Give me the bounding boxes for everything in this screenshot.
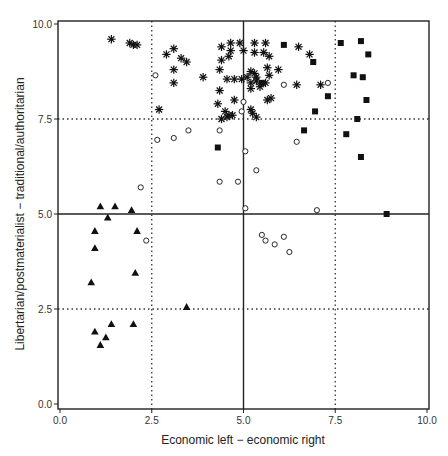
asterisk-marker-icon xyxy=(217,56,225,64)
asterisk-marker-icon xyxy=(107,35,115,43)
y-tick-label: 7.5 xyxy=(38,114,52,125)
asterisk-marker-icon xyxy=(261,39,269,47)
filled-square-marker-icon xyxy=(358,38,364,44)
asterisk-marker-icon xyxy=(170,79,178,87)
asterisk-marker-icon xyxy=(265,52,273,60)
asterisk-marker-icon xyxy=(215,65,223,73)
asterisk-marker-icon xyxy=(239,46,247,54)
open-circle-marker-icon xyxy=(171,135,176,140)
asterisk-marker-icon xyxy=(215,86,223,94)
asterisk-marker-icon xyxy=(267,94,275,102)
open-circle-marker-icon xyxy=(155,137,160,142)
asterisk-marker-icon xyxy=(155,105,163,113)
filled-square-marker-icon xyxy=(259,80,265,86)
open-circle-marker-icon xyxy=(325,80,330,85)
filled-square-marker-icon xyxy=(338,40,344,46)
open-circle-marker-icon xyxy=(153,73,158,78)
asterisk-marker-icon xyxy=(199,73,207,81)
x-tick-label: 0.0 xyxy=(53,415,67,426)
asterisk-marker-icon xyxy=(316,81,324,89)
asterisk-marker-icon xyxy=(243,73,251,81)
asterisk-marker-icon xyxy=(228,111,236,119)
filled-square-marker-icon xyxy=(343,131,349,137)
filled-square-marker-icon xyxy=(358,154,364,160)
open-circle-marker-icon xyxy=(138,185,143,190)
open-circle-marker-icon xyxy=(217,128,222,133)
open-circle-marker-icon xyxy=(239,109,244,114)
open-circle-marker-icon xyxy=(272,242,277,247)
asterisk-marker-icon xyxy=(294,43,302,51)
open-circle-marker-icon xyxy=(263,238,268,243)
asterisk-marker-icon xyxy=(223,75,231,83)
asterisk-marker-icon xyxy=(293,81,301,89)
open-circle-marker-icon xyxy=(287,249,292,254)
asterisk-marker-icon xyxy=(265,71,273,79)
filled-square-marker-icon xyxy=(301,127,307,133)
filled-square-marker-icon xyxy=(365,51,371,57)
open-circle-marker-icon xyxy=(254,168,259,173)
x-tick-label: 7.5 xyxy=(328,415,342,426)
open-circle-marker-icon xyxy=(314,208,319,213)
asterisk-marker-icon xyxy=(247,84,255,92)
scatter-chart: 0.02.55.07.510.0 0.02.55.07.510.0 Econom… xyxy=(0,0,448,456)
asterisk-marker-icon xyxy=(177,54,185,62)
asterisk-marker-icon xyxy=(133,41,141,49)
y-axis-label: Libertarian/postmaterialist − traditiona… xyxy=(13,77,27,350)
asterisk-marker-icon xyxy=(170,45,178,53)
open-circle-marker-icon xyxy=(259,232,264,237)
filled-square-marker-icon xyxy=(354,116,360,122)
asterisk-marker-icon xyxy=(252,113,260,121)
asterisk-marker-icon xyxy=(170,65,178,73)
asterisk-marker-icon xyxy=(274,65,282,73)
x-tick-label: 10.0 xyxy=(417,415,437,426)
chart-background xyxy=(0,0,448,456)
open-circle-marker-icon xyxy=(144,238,149,243)
asterisk-marker-icon xyxy=(250,48,258,56)
y-tick-label: 2.5 xyxy=(38,304,52,315)
asterisk-marker-icon xyxy=(217,43,225,51)
x-tick-label: 2.5 xyxy=(145,415,159,426)
asterisk-marker-icon xyxy=(182,58,190,66)
asterisk-marker-icon xyxy=(230,96,238,104)
asterisk-marker-icon xyxy=(305,50,313,58)
filled-square-marker-icon xyxy=(281,42,287,48)
asterisk-marker-icon xyxy=(162,50,170,58)
open-circle-marker-icon xyxy=(235,179,240,184)
open-circle-marker-icon xyxy=(217,179,222,184)
filled-square-marker-icon xyxy=(384,211,390,217)
open-circle-marker-icon xyxy=(241,99,246,104)
asterisk-marker-icon xyxy=(225,52,233,60)
filled-square-marker-icon xyxy=(310,59,316,65)
filled-square-marker-icon xyxy=(325,93,331,99)
asterisk-marker-icon xyxy=(250,39,258,47)
y-tick-label: 0.0 xyxy=(38,399,52,410)
asterisk-marker-icon xyxy=(230,75,238,83)
open-circle-marker-icon xyxy=(281,234,286,239)
filled-square-marker-icon xyxy=(360,74,366,80)
filled-square-marker-icon xyxy=(351,72,357,78)
x-axis-label: Economic left − economic right xyxy=(161,433,325,447)
asterisk-marker-icon xyxy=(226,39,234,47)
asterisk-marker-icon xyxy=(236,39,244,47)
y-tick-label: 5.0 xyxy=(38,209,52,220)
open-circle-marker-icon xyxy=(243,149,248,154)
x-tick-label: 5.0 xyxy=(237,415,251,426)
filled-square-marker-icon xyxy=(363,97,369,103)
asterisk-marker-icon xyxy=(214,100,222,108)
open-circle-marker-icon xyxy=(243,206,248,211)
asterisk-marker-icon xyxy=(263,64,271,72)
asterisk-marker-icon xyxy=(247,67,255,75)
asterisk-marker-icon xyxy=(259,48,267,56)
open-circle-marker-icon xyxy=(281,82,286,87)
filled-square-marker-icon xyxy=(215,145,221,151)
asterisk-marker-icon xyxy=(226,46,234,54)
filled-square-marker-icon xyxy=(312,108,318,114)
open-circle-marker-icon xyxy=(294,139,299,144)
open-circle-marker-icon xyxy=(186,128,191,133)
y-tick-label: 10.0 xyxy=(33,19,53,30)
